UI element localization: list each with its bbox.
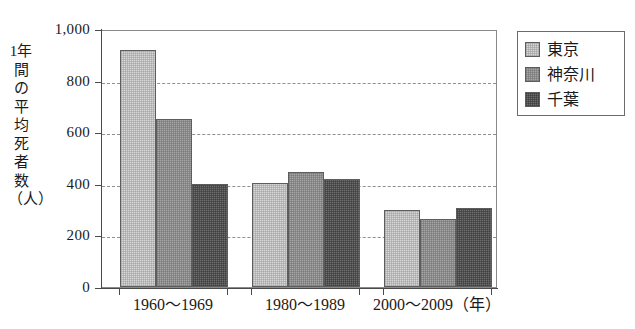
x-tick-mark <box>491 288 492 295</box>
legend-item[interactable]: 東京 <box>525 37 624 62</box>
bar-chart: 1年間の平均死者数（人） 02004006008001,000 1960～196… <box>0 0 635 329</box>
x-tick-mark <box>251 288 252 295</box>
bar <box>288 172 324 287</box>
x-tick-label: 1980～1989 <box>235 296 375 314</box>
y-axis-line <box>101 29 102 289</box>
x-axis-line <box>101 288 498 289</box>
legend-item[interactable]: 千葉 <box>525 87 624 112</box>
legend-swatch-icon <box>525 42 540 57</box>
bar <box>192 184 228 287</box>
bar <box>156 119 192 287</box>
x-tick-mark <box>227 288 228 295</box>
y-tick-label: 1,000 <box>55 22 90 37</box>
x-tick-label: 1960～1969 <box>103 296 243 314</box>
legend-item-label: 千葉 <box>547 92 579 108</box>
y-tick-label: 800 <box>67 74 90 89</box>
legend-swatch-icon <box>525 67 540 82</box>
bar <box>324 179 360 287</box>
y-axis-title: 1年間の平均死者数（人） <box>8 42 34 209</box>
y-tick-label: 200 <box>67 228 90 243</box>
y-tick-label: 0 <box>82 280 90 295</box>
bar <box>420 219 456 287</box>
legend: 東京 神奈川 千葉 <box>517 31 625 116</box>
y-tick-label: 600 <box>67 125 90 140</box>
legend-item[interactable]: 神奈川 <box>525 62 624 87</box>
x-tick-label: 2000～2009（年） <box>367 296 507 314</box>
plot-area <box>101 30 497 288</box>
y-tick-label: 400 <box>67 177 90 192</box>
x-tick-mark <box>119 288 120 295</box>
bar <box>252 183 288 287</box>
legend-item-label: 東京 <box>547 42 579 58</box>
legend-item-label: 神奈川 <box>547 67 595 83</box>
bar <box>120 50 156 287</box>
gridline <box>102 83 496 84</box>
x-tick-mark <box>359 288 360 295</box>
bar <box>456 208 492 287</box>
bar <box>384 210 420 287</box>
legend-swatch-icon <box>525 92 540 107</box>
x-tick-mark <box>383 288 384 295</box>
